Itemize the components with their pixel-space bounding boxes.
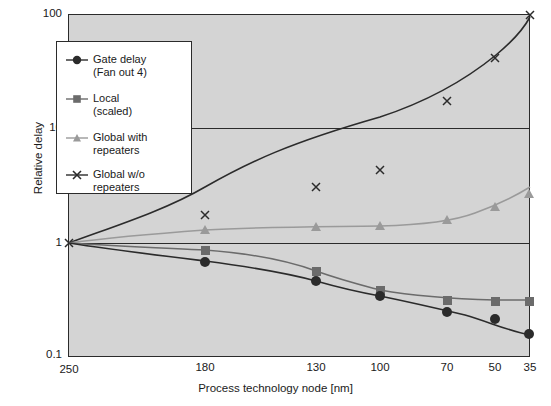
legend-entry-gate-delay: Gate delay (Fan out 4) <box>65 53 147 79</box>
legend-entry-local: Local (scaled) <box>65 92 132 118</box>
x-tick-250: 250 <box>53 364 85 376</box>
y-tick-1: 1 <box>30 237 62 249</box>
legend-label-gate-delay: Gate delay (Fan out 4) <box>93 53 147 79</box>
x-tick-130: 130 <box>300 362 332 374</box>
chart-figure: 100 10 1 0.1 Relative delay <box>0 0 551 406</box>
y-tick-0.1: 0.1 <box>26 349 62 361</box>
series-gate-delay <box>69 243 534 339</box>
cross-marker-icon <box>65 169 89 181</box>
x-tick-35: 35 <box>514 362 546 374</box>
legend-entry-global-wo-repeaters: Global w/o repeaters <box>65 168 191 194</box>
legend-label-local: Local (scaled) <box>93 92 132 118</box>
x-tick-180: 180 <box>189 362 221 374</box>
circle-marker-icon <box>65 54 89 66</box>
triangle-marker-icon <box>65 132 89 144</box>
y-axis-label: Relative delay <box>32 98 44 218</box>
x-tick-50: 50 <box>479 362 511 374</box>
x-axis-label: Process technology node [nm] <box>0 382 551 394</box>
series-global-with-repeaters <box>69 187 534 243</box>
legend-label-global-with-repeaters: Global with repeaters <box>93 131 191 157</box>
legend-entry-global-with-repeaters: Global with repeaters <box>65 131 191 157</box>
square-marker-icon <box>65 93 89 105</box>
marker-group-triangle <box>200 189 534 234</box>
y-tick-100: 100 <box>30 8 62 20</box>
plot-area: Gate delay (Fan out 4) Local (scaled) <box>68 14 530 357</box>
legend-label-global-wo-repeaters: Global w/o repeaters <box>93 168 191 194</box>
marker-group-circle <box>200 257 534 339</box>
legend: Gate delay (Fan out 4) Local (scaled) <box>56 41 192 194</box>
x-tick-70: 70 <box>431 362 463 374</box>
x-tick-100: 100 <box>364 362 396 374</box>
